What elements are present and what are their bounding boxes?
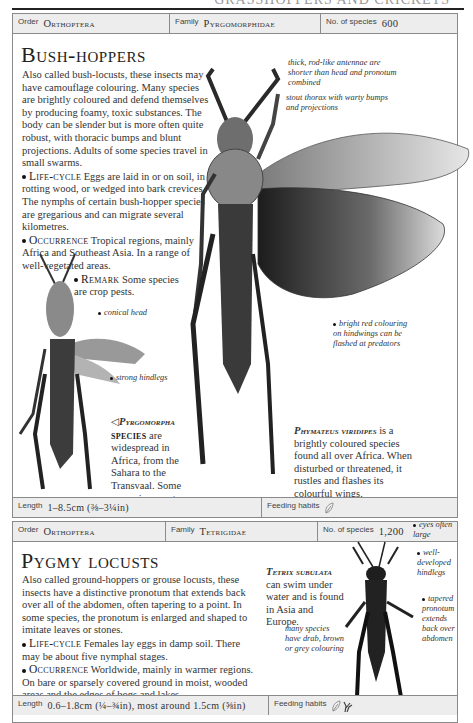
length-label: Length: [18, 501, 42, 510]
feeding-habits-label: Feeding habits: [274, 699, 326, 708]
species-count-value: 1,200: [379, 526, 404, 537]
order-value: Orthoptera: [43, 526, 94, 537]
thorax-annotation: stout thorax with warty bumps and projec…: [286, 93, 396, 113]
bush-hoppers-footer: Length 1–8.5cm (⅜–3¼in) Feeding habits: [13, 497, 457, 517]
classification-header: Order Orthoptera Family Pyrgomorphidae N…: [13, 14, 457, 34]
species-count-cell: No. of species 600: [321, 14, 457, 33]
grass-icon: [343, 700, 353, 712]
order-label: Order: [18, 17, 38, 26]
hindwings-annotation: bright red colouring on hindwings can be…: [333, 319, 415, 349]
life-cycle-label: Life-cycle: [29, 170, 81, 182]
length-cell: Length 1–8.5cm (⅜–3¼in): [13, 498, 262, 517]
feeding-habits-cell: Feeding habits: [269, 696, 457, 715]
phymateus-caption: Phymateus viridipes is a brightly colour…: [294, 425, 412, 501]
length-label: Length: [18, 699, 42, 708]
order-cell: Order Orthoptera: [13, 14, 170, 33]
tetrix-subulata-image: [343, 542, 423, 702]
species-count-label: No. of species: [326, 17, 377, 26]
phymateus-viridipes-image: [173, 64, 473, 484]
leaf-icon: [331, 700, 341, 712]
top-rule: [12, 8, 464, 10]
eyes-annotation: eyes often large: [413, 520, 453, 540]
tetrix-caption: Tetrix subulata can swim under water and…: [266, 566, 346, 629]
running-head: GRASSHOPPERS AND CRICKETS: [150, 0, 450, 4]
family-cell: Family Pyrgomorphidae: [170, 14, 321, 33]
order-label: Order: [18, 525, 38, 534]
leaf-icon: [324, 502, 334, 514]
occurrence-label: Occurrence: [29, 663, 88, 675]
order-value: Orthoptera: [43, 18, 94, 29]
length-value: 0.6–1.8cm (¼–¾in), most around 1.5cm (⅝i…: [47, 700, 245, 711]
family-label: Family: [175, 17, 199, 26]
family-cell: Family Tetrigidae: [166, 522, 318, 541]
family-label: Family: [171, 525, 195, 534]
length-value: 1–8.5cm (⅜–3¼in): [47, 502, 128, 513]
pronotum-annotation: tapered pronotum extends back over abdom…: [422, 594, 462, 644]
section-title: Pygmy locusts: [21, 548, 159, 574]
antennae-annotation: thick, rod-like antennae are shorter tha…: [288, 58, 398, 88]
hindlegs-annotation: well-developed hindlegs: [417, 548, 457, 578]
feeding-habits-label: Feeding habits: [267, 501, 319, 510]
family-value: Pyrgomorphidae: [204, 18, 276, 29]
bush-hoppers-panel: Order Orthoptera Family Pyrgomorphidae N…: [12, 13, 458, 518]
section-title: Bush-hoppers: [21, 42, 146, 68]
conical-head-annotation: conical head: [98, 308, 147, 318]
feeding-habits-cell: Feeding habits: [262, 498, 457, 517]
family-value: Tetrigidae: [200, 526, 247, 537]
pygmy-locusts-footer: Length 0.6–1.8cm (¼–¾in), most around 1.…: [13, 695, 457, 715]
intro-paragraph: Also called ground-hoppers or grouse loc…: [22, 574, 254, 637]
classification-header: Order Orthoptera Family Tetrigidae No. o…: [13, 522, 457, 542]
species-count-value: 600: [382, 18, 399, 29]
length-cell: Length 0.6–1.8cm (¼–¾in), most around 1.…: [13, 696, 269, 715]
species-count-label: No. of species: [323, 525, 374, 534]
life-cycle-label: Life-cycle: [29, 637, 81, 649]
colouring-annotation: many species have drab, brown or grey co…: [285, 624, 345, 654]
life-cycle-paragraph: Life-cycle Females lay eggs in damp soil…: [22, 637, 254, 663]
occurrence-label: Occurrence: [29, 234, 88, 246]
order-cell: Order Orthoptera: [13, 522, 166, 541]
hindlegs-annotation: strong hindlegs: [110, 373, 168, 383]
pygmy-locusts-description: Also called ground-hoppers or grouse loc…: [22, 574, 254, 702]
pygmy-locusts-panel: Order Orthoptera Family Tetrigidae No. o…: [12, 521, 458, 723]
